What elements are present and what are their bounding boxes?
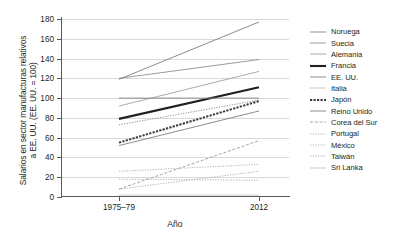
series-line [119,101,259,143]
y-tick-label: 160 [40,34,54,43]
legend-label: Portugal [331,129,359,138]
legend-item[interactable]: México [310,139,403,150]
y-tick-mark [57,197,61,198]
legend-item[interactable]: Portugal [310,128,403,139]
legend-item[interactable]: Taiwán [310,151,403,162]
legend-item[interactable]: Noruega [310,26,403,37]
legend-item[interactable]: EE. UU. [310,71,403,82]
y-tick-label: 0 [49,193,54,202]
plot-area: 020406080100120140160180 1975–792012 [61,19,289,197]
legend-line-swatch [310,140,326,150]
legend-line-swatch [310,129,326,139]
legend-label: Alemania [331,50,362,59]
chart-legend: NoruegaSueciaAlemaniaFranciaEE. UU.Itali… [310,26,403,173]
legend-line-swatch [310,49,326,59]
x-tick-label: 2012 [250,203,268,212]
series-line [119,60,259,79]
legend-label: Taiwán [331,152,354,161]
series-lines [61,19,289,197]
legend-line-swatch [310,72,326,82]
y-tick-label: 40 [45,153,54,162]
legend-item[interactable]: Corea del Sur [310,117,403,128]
y-tick-label: 180 [40,15,54,24]
series-line [119,111,259,146]
legend-item[interactable]: Suecia [310,37,403,48]
y-tick-label: 100 [40,94,54,103]
legend-line-swatch [310,163,326,173]
legend-item[interactable]: Japón [310,94,403,105]
chart-figure: Salarios en sector manufacturas relativo… [0,0,403,251]
series-line [119,87,259,119]
series-line [119,171,259,189]
series-line [119,71,259,106]
y-tick-label: 140 [40,54,54,63]
y-tick-label: 60 [45,133,54,142]
legend-label: Noruega [331,27,360,36]
legend-line-swatch [310,61,326,71]
legend-line-swatch [310,106,326,116]
legend-label: Sri Lanka [331,163,363,172]
y-tick-label: 120 [40,74,54,83]
legend-line-swatch [310,151,326,161]
legend-label: Italia [331,84,347,93]
series-line [119,22,259,79]
legend-item[interactable]: Reino Unido [310,105,403,116]
legend-line-swatch [310,95,326,105]
legend-item[interactable]: Alemania [310,49,403,60]
x-tick-label: 1975–79 [103,203,135,212]
series-line [119,164,259,171]
legend-line-swatch [310,83,326,93]
legend-line-swatch [310,117,326,127]
x-tick-mark [119,197,120,201]
legend-label: Reino Unido [331,107,372,116]
legend-label: Francia [331,61,356,70]
series-line [119,141,259,189]
y-tick-label: 20 [45,173,54,182]
legend-line-swatch [310,27,326,37]
legend-item[interactable]: Italia [310,83,403,94]
legend-label: Japón [331,95,351,104]
y-tick-label: 80 [45,113,54,122]
legend-line-swatch [310,38,326,48]
legend-label: México [331,141,355,150]
legend-label: Suecia [331,39,354,48]
legend-item[interactable]: Sri Lanka [310,162,403,173]
x-tick-mark [259,197,260,201]
legend-item[interactable]: Francia [310,60,403,71]
y-axis-title: Salarios en sector manufacturas relativo… [18,8,39,213]
legend-label: EE. UU. [331,73,358,82]
legend-label: Corea del Sur [331,118,377,127]
x-axis-title: Año [61,219,289,229]
